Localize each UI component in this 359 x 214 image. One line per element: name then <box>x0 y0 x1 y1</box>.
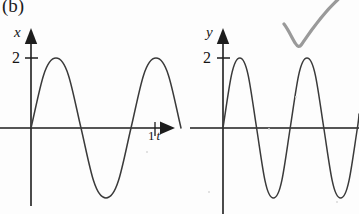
scan-speck <box>336 201 338 203</box>
right-plot-y-axis-label: y <box>206 25 213 40</box>
scan-speck <box>268 128 270 130</box>
left-plot-y-tick-label: 2 <box>12 50 20 66</box>
scan-speck <box>295 96 297 98</box>
checkmark-icon <box>276 0 350 54</box>
left-plot: x 2 1t <box>0 0 190 214</box>
left-plot-graphic <box>0 0 190 214</box>
scan-speck <box>146 151 148 153</box>
right-plot-y-tick-label: 2 <box>203 50 211 66</box>
figure-canvas: (b) x 2 1t <box>0 0 359 214</box>
scan-speck <box>208 191 210 193</box>
left-plot-y-axis-label: x <box>14 25 21 40</box>
left-plot-y-axis <box>25 28 37 206</box>
left-plot-x-tick-label: 1t <box>148 129 160 142</box>
right-plot-y-axis <box>217 28 229 214</box>
